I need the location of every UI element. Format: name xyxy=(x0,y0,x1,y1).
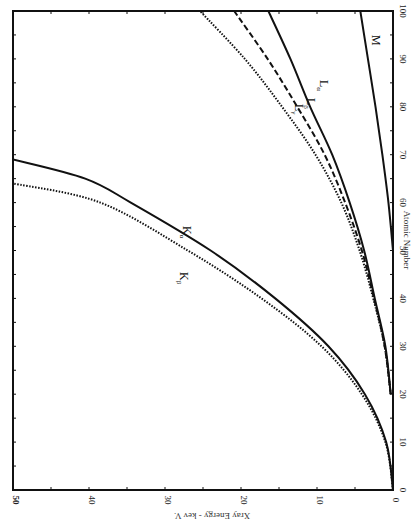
series-M xyxy=(360,11,393,251)
xray-energy-chart: 010203040506070809010001020304050 KαKβLα… xyxy=(0,0,420,526)
label-Lg: Lγ xyxy=(290,104,306,114)
label-La: Lα xyxy=(315,80,331,91)
x-tick-label: 60 xyxy=(398,198,408,208)
x-tick-label: 10 xyxy=(398,438,408,448)
y-tick-label: 10 xyxy=(315,496,325,506)
series-Kβ xyxy=(13,183,393,490)
x-tick-label: 90 xyxy=(398,54,408,64)
plot-border xyxy=(13,11,393,490)
series-Kα xyxy=(13,159,393,490)
label-Kb: Kβ xyxy=(175,272,191,285)
x-tick-label: 80 xyxy=(398,102,408,112)
label-Ka: Kα xyxy=(178,226,194,239)
y-tick-label: 20 xyxy=(239,496,249,506)
x-axis-title: Atomic Number xyxy=(402,211,412,270)
y-tick-label: 50 xyxy=(11,496,21,506)
y-tick-label: 40 xyxy=(87,496,97,506)
axis-ticks: 010203040506070809010001020304050 xyxy=(11,4,408,505)
x-tick-label: 30 xyxy=(398,342,408,352)
x-tick-label: 70 xyxy=(398,150,408,160)
label-M: M xyxy=(369,35,383,46)
y-axis-title: Xray Energy - kev V. xyxy=(174,511,250,521)
series-Lα xyxy=(268,11,390,394)
x-tick-label: 40 xyxy=(398,294,408,304)
x-tick-label: 0 xyxy=(398,488,408,493)
y-tick-label: 0 xyxy=(391,498,401,503)
plot-frame xyxy=(13,11,393,490)
x-tick-label: 20 xyxy=(398,390,408,400)
curves xyxy=(13,11,393,490)
x-tick-label: 100 xyxy=(398,4,408,18)
y-tick-label: 30 xyxy=(163,496,173,506)
